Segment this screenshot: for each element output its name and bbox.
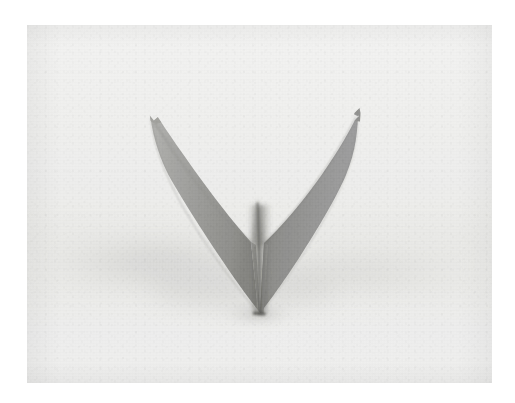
page-canvas: Folded paper origami model shaped like t… bbox=[0, 0, 515, 403]
subject-label: Folded paper V shape bbox=[0, 0, 1, 1]
photograph-image bbox=[27, 25, 492, 383]
photo-tone-overlay bbox=[27, 25, 492, 383]
photograph bbox=[27, 25, 492, 383]
page-caption bbox=[0, 0, 1, 1]
photo-alt-text: Folded paper origami model shaped like t… bbox=[0, 0, 1, 1]
